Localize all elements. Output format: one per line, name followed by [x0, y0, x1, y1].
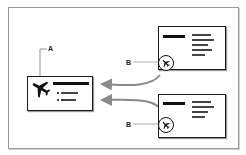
- title-bar: [163, 35, 185, 38]
- text-line: [192, 101, 211, 103]
- bullet: [57, 92, 59, 94]
- text-line: [192, 116, 205, 118]
- arrow-top: [102, 75, 160, 85]
- callout-b-bottom: B: [126, 121, 131, 128]
- text-line: [192, 44, 208, 46]
- text-line: [192, 111, 208, 113]
- circled-airplane-icon: [161, 58, 171, 68]
- text-line: [192, 54, 205, 56]
- badge-bottom: [158, 117, 174, 133]
- callout-b-top: B: [126, 59, 131, 66]
- main-card: [27, 76, 93, 111]
- circled-airplane-icon: [161, 120, 171, 130]
- badge-top: [158, 55, 174, 71]
- text-line: [192, 39, 214, 41]
- title-bar: [163, 102, 185, 105]
- bullet: [57, 99, 59, 101]
- text-line: [192, 49, 212, 51]
- airplane-icon: [30, 77, 52, 99]
- text-line: [192, 34, 211, 36]
- title-bar: [53, 82, 89, 85]
- text-line: [192, 106, 214, 108]
- callout-a: A: [48, 45, 53, 52]
- bullet-line: [61, 92, 78, 94]
- bullet-line: [61, 99, 76, 101]
- arrow-bottom: [102, 100, 165, 117]
